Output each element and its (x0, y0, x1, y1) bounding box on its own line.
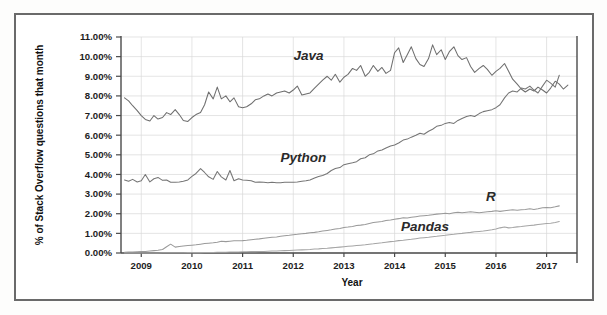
x-tick-label: 2012 (283, 260, 304, 271)
y-tick-label: 0.00% (85, 247, 113, 258)
y-tick-label: 5.00% (85, 149, 113, 160)
line-chart: 200920102011201220132014201520162017 0.0… (0, 0, 607, 315)
series-label-pandas: Pandas (401, 219, 450, 234)
x-tick-label: 2011 (232, 260, 253, 271)
x-tick-label: 2014 (384, 260, 406, 271)
series-label-python: Python (281, 150, 327, 165)
y-tick-label: 8.00% (85, 90, 113, 101)
y-tick-label: 3.00% (85, 188, 113, 199)
series-annotations: JavaPythonRPandas (281, 48, 496, 234)
x-axis-title: Year (341, 277, 362, 288)
x-tick-label: 2015 (435, 260, 457, 271)
x-tick-label: 2017 (536, 260, 557, 271)
x-axis-tick-labels: 200920102011201220132014201520162017 (131, 260, 558, 271)
series-line-pandas (125, 222, 560, 253)
x-tick-label: 2016 (485, 260, 506, 271)
series-label-java: Java (293, 48, 324, 63)
x-tick-label: 2013 (333, 260, 354, 271)
y-tick-label: 7.00% (85, 110, 113, 121)
y-tick-label: 2.00% (85, 208, 113, 219)
series-label-r: R (486, 189, 496, 204)
y-axis-title: % of Stack Overflow questions that month (34, 45, 45, 246)
y-axis-tick-labels: 0.00%1.00%2.00%3.00%4.00%5.00%6.00%7.00%… (79, 31, 112, 258)
series-line-python (125, 75, 560, 182)
y-tick-label: 4.00% (85, 169, 113, 180)
y-tick-label: 11.00% (80, 31, 112, 42)
gridlines (121, 37, 577, 253)
x-tick-label: 2009 (131, 260, 152, 271)
x-tick-label: 2010 (181, 260, 202, 271)
y-tick-label: 6.00% (85, 130, 113, 141)
y-tick-label: 10.00% (79, 51, 112, 62)
y-tick-label: 9.00% (85, 71, 113, 82)
figure-root: 200920102011201220132014201520162017 0.0… (0, 0, 607, 315)
y-tick-label: 1.00% (85, 228, 113, 239)
